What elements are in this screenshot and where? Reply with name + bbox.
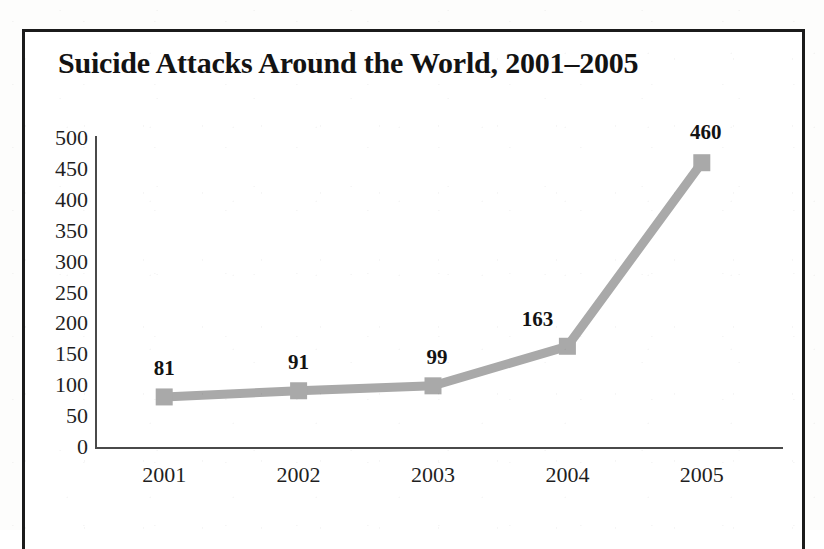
y-tick-label: 400 (28, 189, 88, 211)
x-tick-label: 2004 (507, 462, 627, 488)
y-tick-label: 0 (28, 436, 88, 458)
data-point-label: 163 (522, 307, 554, 332)
x-tick-label: 2003 (373, 462, 493, 488)
y-tick-label: 500 (28, 127, 88, 149)
data-point-label: 91 (288, 350, 309, 375)
x-tick-label: 2005 (642, 462, 762, 488)
data-point-label: 460 (690, 120, 722, 145)
data-point-marker (156, 388, 173, 405)
x-tick-label: 2002 (239, 462, 359, 488)
y-tick-label: 200 (28, 312, 88, 334)
data-point-marker (290, 382, 307, 399)
line-series (97, 138, 769, 447)
y-tick-label: 150 (28, 343, 88, 365)
x-axis-line (95, 447, 783, 449)
y-tick-label: 100 (28, 374, 88, 396)
y-tick-label: 450 (28, 158, 88, 180)
data-point-label: 99 (427, 345, 448, 370)
data-point-label: 81 (154, 356, 175, 381)
y-tick-label: 350 (28, 220, 88, 242)
y-tick-label: 250 (28, 282, 88, 304)
x-tick-label: 2001 (104, 462, 224, 488)
data-point-marker (425, 377, 442, 394)
plot-area: 819199163460 (97, 138, 769, 447)
y-axis-tick-labels: 500450400350300250200150100500 (26, 138, 88, 447)
x-axis-tick-labels: 20012002200320042005 (97, 462, 769, 494)
y-tick-label: 300 (28, 251, 88, 273)
chart-title: Suicide Attacks Around the World, 2001–2… (58, 46, 638, 80)
y-tick-label: 50 (28, 405, 88, 427)
data-point-marker (693, 154, 710, 171)
data-point-marker (559, 338, 576, 355)
